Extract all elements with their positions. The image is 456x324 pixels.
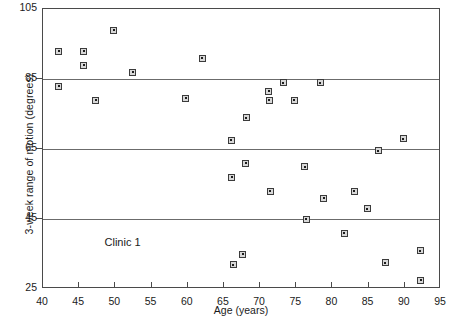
data-point [55,48,62,55]
data-point [265,88,272,95]
x-axis-title: Age (years) [42,304,440,316]
data-point [228,174,235,181]
y-tick-label-65: 65 [9,141,37,153]
data-point [417,277,424,284]
data-point [182,95,189,102]
x-tick-45 [78,282,79,288]
x-tick-70 [259,282,260,288]
data-point [382,259,389,266]
data-point [280,79,287,86]
gridline-y-85 [43,79,439,80]
x-tick-85 [368,282,369,288]
y-tick-label-45: 45 [9,211,37,223]
x-tick-80 [331,282,332,288]
x-tick-50 [114,282,115,288]
data-point [267,188,274,195]
data-point [266,97,273,104]
data-point [230,261,237,268]
y-tick-label-85: 85 [9,71,37,83]
data-point [303,216,310,223]
data-point [320,195,327,202]
data-point [110,27,117,34]
data-point [243,114,250,121]
annotation-clinic-label: Clinic 1 [105,236,141,248]
data-point [375,147,382,154]
x-tick-55 [151,282,152,288]
data-point [55,83,62,90]
x-tick-65 [223,282,224,288]
data-point [199,55,206,62]
data-point [364,205,371,212]
data-point [341,230,348,237]
data-point [129,69,136,76]
y-axis-title: 3-week range of motion (degrees) [23,29,35,279]
data-point [351,188,358,195]
data-point [417,247,424,254]
y-tick-label-105: 105 [9,1,37,13]
y-tick-label-25: 25 [9,281,37,293]
data-point [317,79,324,86]
scatter-plot-figure: 3-week range of motion (degrees) Clinic … [0,0,456,324]
data-point [80,48,87,55]
data-point [239,251,246,258]
x-tick-90 [404,282,405,288]
data-point [92,97,99,104]
data-point [242,160,249,167]
gridline-y-45 [43,219,439,220]
data-point [80,62,87,69]
data-point [291,97,298,104]
plot-area: Clinic 1 [42,8,440,288]
data-point [228,137,235,144]
x-tick-75 [295,282,296,288]
y-axis-ticks: 25456585105 [42,8,52,288]
data-point [400,135,407,142]
x-tick-60 [187,282,188,288]
data-point [301,163,308,170]
